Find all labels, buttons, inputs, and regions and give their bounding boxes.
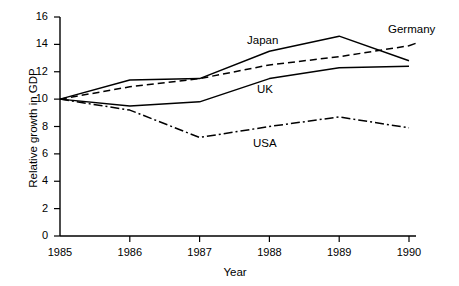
- x-tick-label: 1990: [389, 247, 429, 258]
- y-tick-label: 0: [26, 230, 48, 241]
- x-tick-label: 1988: [249, 247, 289, 258]
- plot-area: [0, 0, 459, 286]
- x-axis-title: Year: [185, 266, 285, 278]
- y-axis-title: Relative growth in GDP: [27, 48, 39, 208]
- series-line-germany: [60, 46, 409, 99]
- x-tick-label: 1987: [180, 247, 220, 258]
- series-label-uk: UK: [257, 83, 273, 95]
- series-label-japan: Japan: [247, 34, 278, 46]
- x-tick-label: 1986: [110, 247, 150, 258]
- series-label-germany: Germany: [388, 23, 435, 35]
- line-chart: 0246810121416 198519861987198819891990 R…: [0, 0, 459, 286]
- x-tick-label: 1985: [40, 247, 80, 258]
- x-axis-ticks: [130, 236, 409, 242]
- series-lines: [60, 36, 416, 137]
- y-tick-label: 16: [26, 11, 48, 22]
- series-line-germany-extension: [409, 43, 416, 46]
- y-axis-ticks: [54, 17, 60, 236]
- series-label-usa: USA: [253, 137, 277, 149]
- x-tick-label: 1989: [319, 247, 359, 258]
